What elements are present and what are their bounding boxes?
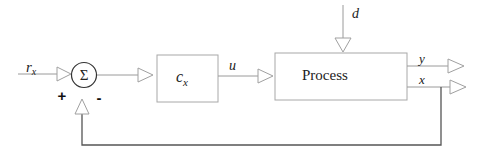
sigma-icon: Σ <box>80 67 89 83</box>
control-label: u <box>229 58 236 73</box>
arrow-icon <box>450 80 466 94</box>
controller-block: cx <box>157 55 218 102</box>
block-diagram: rx Σ + - cx u d Process y x <box>0 0 479 155</box>
plus-sign: + <box>58 87 67 104</box>
arrow-icon <box>138 68 153 82</box>
minus-sign: - <box>97 89 102 106</box>
output-y-label: y <box>417 51 425 66</box>
output-x-label: x <box>418 72 425 87</box>
arrow-icon <box>448 59 464 73</box>
reference-input: rx <box>18 59 71 81</box>
process-label: Process <box>302 67 348 83</box>
disturbance-input: d <box>335 5 360 52</box>
reference-label: rx <box>26 59 37 77</box>
arrow-icon <box>258 69 273 83</box>
arrow-icon <box>57 67 71 81</box>
disturbance-label: d <box>352 6 360 21</box>
summing-junction: Σ + - <box>58 63 102 107</box>
arrow-icon <box>75 99 89 114</box>
arrow-icon <box>335 38 351 52</box>
process-block: Process <box>275 53 407 100</box>
